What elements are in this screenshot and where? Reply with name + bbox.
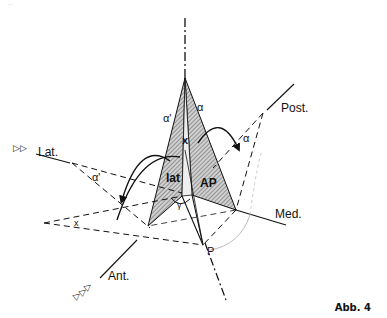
label-chi-left: x [74,218,79,228]
label-plane-lat: lat [166,171,180,185]
label-medial: Med. [275,207,302,221]
label-point-p: P [207,245,214,257]
lateral-direction-markers: ▷▷ [13,143,27,153]
projection-diagram: Lat. Post. Med. Ant. P lat AP α α' α' α … [0,0,387,318]
label-lateral: Lat. [38,145,58,159]
label-alpha: α [197,101,204,113]
label-alpha-prime-top: α' [163,112,171,124]
label-gamma: γ [177,200,182,210]
figure-caption: Abb. 4 [335,302,371,313]
label-anterior: Ant. [108,269,129,283]
label-chi-center: x [182,134,189,146]
label-alpha-prime-left: α' [92,171,100,183]
label-plane-ap: AP [200,176,217,190]
label-alpha-right: α [243,132,250,144]
anterior-direction-markers: ▷▷▷ [71,281,94,302]
label-posterior: Post. [281,101,308,115]
